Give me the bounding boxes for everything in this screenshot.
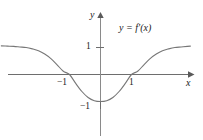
plot-canvas — [0, 0, 203, 140]
curve-f-prime — [1, 46, 190, 102]
x-tick-label-positive-one: 1 — [129, 78, 134, 88]
curve-equation-label: y = f′(x) — [119, 23, 151, 33]
y-tick-label-negative-one: −1 — [80, 102, 90, 112]
y-axis-arrowhead — [97, 12, 103, 18]
x-tick-label-negative-one: −1 — [57, 78, 67, 88]
y-tick-label-positive-one: 1 — [86, 42, 91, 52]
x-axis-label: x — [186, 78, 190, 88]
graph-figure: y x −1 1 1 −1 y = f′(x) — [0, 0, 203, 140]
y-axis-label: y — [90, 10, 94, 20]
